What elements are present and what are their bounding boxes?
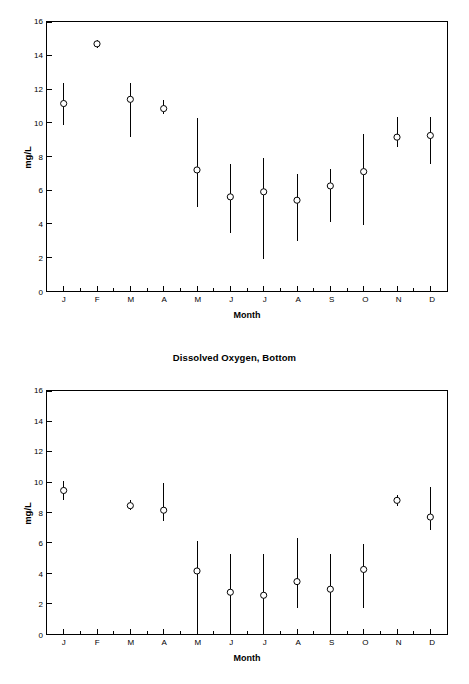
- y-axis-tick-label: 12: [34, 86, 43, 94]
- x-axis-tick-label: A: [162, 639, 167, 647]
- y-axis-tick-label: 4: [39, 571, 43, 579]
- x-axis-tick-label: M: [127, 296, 134, 304]
- x-axis-tick-label: O: [362, 639, 368, 647]
- data-point-marker: [361, 566, 367, 572]
- data-point-marker: [394, 134, 400, 140]
- plot-area-bottom: 0246810121416JFMAMJJASONDMonthmg/L: [46, 390, 448, 635]
- x-axis-tick-label: O: [362, 296, 368, 304]
- y-axis-tick-label: 2: [39, 255, 43, 263]
- y-axis-tick-label: 0: [39, 632, 43, 640]
- y-axis-tick-label: 14: [34, 418, 43, 426]
- y-axis-tick-label: 14: [34, 52, 43, 60]
- x-axis-tick-label: J: [229, 639, 233, 647]
- data-point-marker: [294, 579, 300, 585]
- data-point-marker: [227, 194, 233, 200]
- y-axis-tick-label: 16: [34, 387, 43, 395]
- y-axis-tick-label: 8: [39, 154, 43, 162]
- y-axis-tick-label: 0: [39, 289, 43, 297]
- data-point-marker: [227, 589, 233, 595]
- x-axis-tick-label: D: [429, 639, 435, 647]
- x-axis-tick-label: J: [263, 639, 267, 647]
- data-point-marker: [161, 507, 167, 513]
- y-axis-tick-label: 6: [39, 540, 43, 548]
- data-point-marker: [394, 497, 400, 503]
- data-point-marker: [161, 106, 167, 112]
- y-axis-tick-label: 4: [39, 221, 43, 229]
- chart-title-surface: [0, 0, 469, 1]
- data-point-marker: [194, 167, 200, 173]
- x-axis-tick-label: A: [296, 639, 301, 647]
- data-point-marker: [127, 96, 133, 102]
- x-axis-tick-label: A: [296, 296, 301, 304]
- figure-page: 0246810121416JFMAMJJASONDMonthmg/L Disso…: [0, 0, 469, 684]
- x-axis-tick-label: J: [263, 296, 267, 304]
- plot-area-surface: 0246810121416JFMAMJJASONDMonthmg/L: [46, 21, 448, 292]
- x-axis-tick-label: J: [62, 639, 66, 647]
- data-point-marker: [261, 189, 267, 195]
- x-axis-tick-label: N: [396, 639, 402, 647]
- data-point-marker: [327, 586, 333, 592]
- data-point-marker: [194, 568, 200, 574]
- data-point-marker: [327, 183, 333, 189]
- x-axis-tick-label: S: [329, 296, 334, 304]
- x-axis-tick-label: N: [396, 296, 402, 304]
- data-point-marker: [61, 100, 67, 106]
- data-point-marker: [361, 169, 367, 175]
- y-axis-tick-label: 6: [39, 187, 43, 195]
- x-axis-tick-label: M: [194, 296, 201, 304]
- x-axis-tick-label: J: [62, 296, 66, 304]
- chart-title-bottom: Dissolved Oxygen, Bottom: [0, 352, 469, 363]
- data-point-marker: [61, 487, 67, 493]
- data-point-marker: [427, 514, 433, 520]
- x-axis-tick-label: M: [194, 639, 201, 647]
- chart-dissolved-oxygen-surface: 0246810121416JFMAMJJASONDMonthmg/L: [0, 0, 469, 342]
- y-axis-tick-label: 16: [34, 18, 43, 26]
- y-axis-tick-label: 8: [39, 510, 43, 518]
- chart-dissolved-oxygen-bottom: Dissolved Oxygen, Bottom 0246810121416JF…: [0, 342, 469, 684]
- data-point-marker: [261, 592, 267, 598]
- y-axis-tick-label: 12: [34, 448, 43, 456]
- data-point-marker: [94, 41, 100, 47]
- x-axis-tick-label: A: [162, 296, 167, 304]
- x-axis-title: Month: [234, 310, 261, 320]
- data-point-marker: [427, 132, 433, 138]
- data-point-marker: [294, 197, 300, 203]
- data-point-marker: [127, 503, 133, 509]
- y-axis-tick-label: 10: [34, 120, 43, 128]
- x-axis-title: Month: [234, 653, 261, 663]
- y-axis-tick-label: 10: [34, 479, 43, 487]
- y-axis-tick-label: 2: [39, 601, 43, 609]
- x-axis-tick-label: M: [127, 639, 134, 647]
- x-axis-tick-label: J: [229, 296, 233, 304]
- x-axis-tick-label: D: [429, 296, 435, 304]
- x-axis-tick-label: F: [95, 639, 100, 647]
- y-axis-title: mg/L: [22, 493, 33, 533]
- x-axis-tick-label: F: [95, 296, 100, 304]
- x-axis-tick-label: S: [329, 639, 334, 647]
- plot-svg-surface: [47, 22, 447, 291]
- plot-svg-bottom: [47, 391, 447, 634]
- y-axis-title: mg/L: [22, 137, 33, 177]
